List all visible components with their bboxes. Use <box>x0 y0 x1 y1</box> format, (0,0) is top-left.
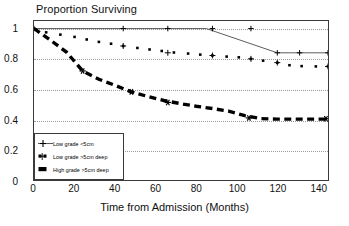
y-axis-tick-label: 0 <box>12 176 18 187</box>
y-axis-tick-label: 1 <box>12 22 18 33</box>
x-axis-tick-label: 100 <box>229 183 246 194</box>
survival-chart: Proportion Surviving 00.20.40.60.81 0204… <box>0 0 349 226</box>
x-axis-tick-label: 40 <box>109 183 120 194</box>
chart-title: Proportion Surviving <box>36 3 137 15</box>
chart-legend: Low grade <5cm Low grade >5cm deep High … <box>34 133 124 180</box>
legend-item-low-grade-small: Low grade <5cm <box>38 137 123 150</box>
y-axis-tick-label: 0.2 <box>4 145 18 156</box>
x-axis-tick-label: 0 <box>30 183 36 194</box>
x-axis-tick-label: 140 <box>310 183 327 194</box>
legend-item-low-grade-deep: Low grade >5cm deep <box>38 150 123 163</box>
x-axis-tick-label: 120 <box>270 183 287 194</box>
y-axis-tick-label: 0.6 <box>4 84 18 95</box>
x-axis-label: Time from Admission (Months) <box>0 201 349 213</box>
thick-dash-key-icon <box>38 164 53 175</box>
y-axis-tick-label: 0.4 <box>4 114 18 125</box>
plus-line-key-icon <box>38 138 53 149</box>
y-axis-tick-label: 0.8 <box>4 53 18 64</box>
legend-item-high-grade-deep: High grade >5cm deep <box>38 163 123 176</box>
x-axis-tick-label: 20 <box>68 183 79 194</box>
series-1 <box>34 26 328 56</box>
legend-label: Low grade >5cm deep <box>53 154 107 160</box>
series-2 <box>34 27 328 69</box>
series-3 <box>34 29 328 122</box>
x-axis-tick-label: 60 <box>150 183 161 194</box>
x-axis-tick-label: 80 <box>191 183 202 194</box>
legend-label: Low grade <5cm <box>53 141 94 147</box>
square-dotted-key-icon <box>38 151 53 162</box>
legend-label: High grade >5cm deep <box>53 167 109 173</box>
